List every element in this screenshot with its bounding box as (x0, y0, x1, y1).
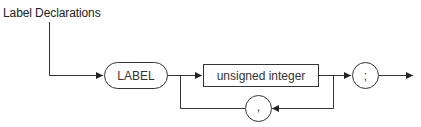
semicolon-node: ; (353, 63, 379, 89)
comma-node: , (246, 96, 272, 122)
unsigned-integer-node: unsigned integer (204, 65, 319, 87)
syntax-diagram: LABEL unsigned integer , ; (0, 0, 421, 127)
semicolon-text: ; (364, 69, 367, 83)
entry-connector (50, 22, 104, 76)
comma-text: , (257, 100, 260, 114)
unsigned-integer-text: unsigned integer (217, 69, 306, 83)
label-keyword-text: LABEL (117, 69, 155, 83)
label-keyword-node: LABEL (105, 63, 168, 89)
